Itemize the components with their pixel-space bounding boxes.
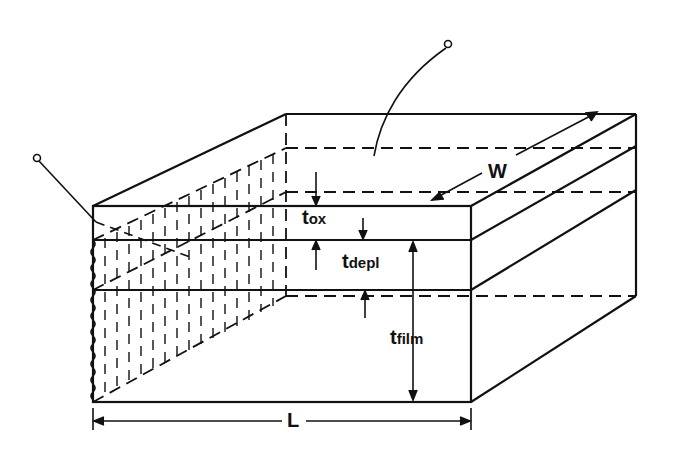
source-hatching — [105, 154, 273, 398]
top-lead — [374, 48, 446, 156]
label-t-depl-sub: depl — [349, 254, 380, 271]
label-t-ox-sub: ox — [309, 210, 327, 227]
top-left-edge — [93, 114, 286, 206]
diagram-canvas: tox tdepl tfilm W L — [0, 0, 673, 464]
label-t-film-sub: film — [397, 330, 424, 347]
label-t-film: tfilm — [390, 326, 423, 349]
top-terminal — [445, 41, 452, 48]
label-t-ox: tox — [302, 206, 326, 229]
left-lead — [39, 161, 96, 222]
label-t-depl-main: t — [342, 250, 349, 272]
bottom-right-edge — [471, 296, 636, 402]
front-face — [93, 206, 471, 402]
label-t-film-main: t — [390, 326, 397, 348]
label-t-depl: tdepl — [342, 250, 380, 273]
label-width-W: W — [488, 160, 507, 183]
box-drawing — [0, 0, 673, 464]
right-face-line-2 — [471, 190, 636, 290]
label-length-L: L — [287, 409, 299, 432]
wavy-source-edge — [91, 240, 95, 400]
left-terminal — [34, 155, 41, 162]
label-t-ox-main: t — [302, 206, 309, 228]
